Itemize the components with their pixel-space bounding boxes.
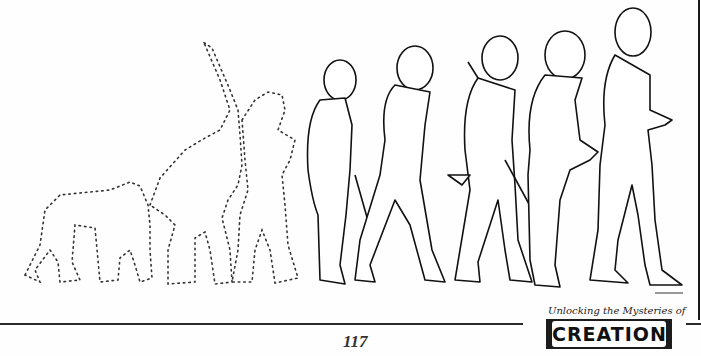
evolution-illustration bbox=[0, 0, 701, 300]
footer-rule-left bbox=[0, 323, 523, 325]
page-edge-line bbox=[698, 0, 700, 320]
book-page: 117 Unlocking the Mysteries of CREATION bbox=[0, 0, 701, 356]
series-logo: Unlocking the Mysteries of CREATION bbox=[524, 307, 684, 355]
footer-rule-right bbox=[686, 323, 701, 325]
dotted-ape-upright bbox=[150, 42, 242, 284]
dotted-hominid bbox=[232, 92, 298, 283]
figure-5 bbox=[590, 8, 682, 285]
logo-tagline: Unlocking the Mysteries of bbox=[548, 305, 685, 316]
dotted-ape-quadruped bbox=[25, 182, 152, 282]
logo-badge: CREATION bbox=[546, 319, 672, 349]
figure-3 bbox=[448, 36, 535, 282]
page-number: 117 bbox=[343, 332, 368, 352]
figure-2 bbox=[355, 46, 445, 282]
logo-wordmark: CREATION bbox=[552, 321, 666, 347]
figure-4 bbox=[528, 31, 598, 287]
